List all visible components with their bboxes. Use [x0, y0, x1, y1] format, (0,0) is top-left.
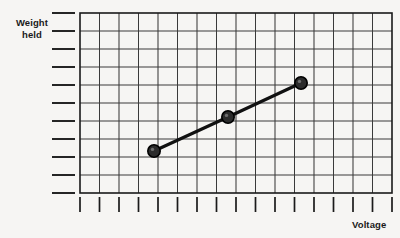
data-point-highlight-3: [298, 80, 301, 83]
line-chart: [0, 0, 400, 238]
chart-background: [0, 0, 400, 238]
data-point-marker-1: [148, 145, 160, 157]
y-axis-label-line1: Weight: [16, 17, 48, 28]
data-point-highlight-1: [151, 148, 154, 151]
y-axis-label: Weightheld: [9, 17, 55, 40]
data-point-marker-2: [222, 111, 234, 123]
x-axis-label: Voltage: [352, 219, 386, 231]
data-point-highlight-2: [225, 114, 228, 117]
data-point-marker-3: [295, 77, 307, 89]
chart-figure: Weightheld Voltage: [0, 0, 400, 238]
y-axis-label-line2: held: [22, 29, 42, 40]
